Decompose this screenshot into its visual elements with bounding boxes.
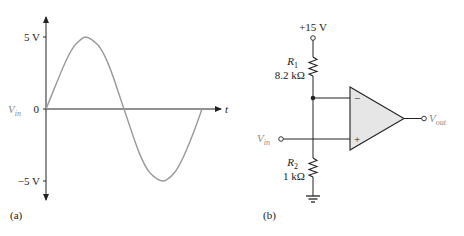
r2-value: 1 kΩ (283, 170, 305, 182)
y-axis-label: Vin (8, 103, 21, 118)
r1-value: 8.2 kΩ (275, 69, 305, 81)
panel-a-label: (a) (10, 209, 23, 222)
panel-a-waveform-plot: 5 V 0 −5 V Vin t (a) (8, 17, 229, 222)
x-axis-label: t (225, 103, 229, 115)
opamp-inverting-sign: − (354, 92, 360, 104)
vout-terminal (422, 116, 427, 121)
vout-label: Vout (429, 112, 447, 127)
y-tick-label-zero: 0 (34, 103, 40, 115)
figure-canvas: 5 V 0 −5 V Vin t (a) +15 V R1 8.2 kΩ Vin… (0, 0, 464, 236)
panel-b-comparator-circuit: +15 V R1 8.2 kΩ Vin − + Vout R2 1 kΩ (257, 21, 447, 222)
panel-b-label: (b) (263, 209, 276, 222)
resistor-r1 (309, 57, 317, 76)
y-tick-label-5v: 5 V (24, 31, 40, 43)
y-tick-label-minus5v: −5 V (18, 175, 40, 187)
r2-name: R2 (286, 156, 298, 171)
vin-label: Vin (257, 132, 270, 147)
ground-icon (306, 196, 320, 202)
supply-label: +15 V (299, 21, 327, 33)
r1-name: R1 (286, 55, 298, 70)
opamp-noninverting-sign: + (354, 133, 360, 145)
vin-terminal (279, 137, 284, 142)
supply-terminal (311, 36, 316, 41)
resistor-r2 (309, 158, 317, 177)
